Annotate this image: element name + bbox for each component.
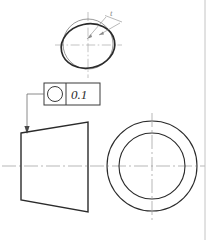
tolerance-value: 0.1 — [71, 87, 87, 102]
feature-control-frame[interactable]: 0.1 — [44, 83, 100, 105]
technical-drawing-canvas: t 0.1 — [0, 0, 211, 240]
drawing-background — [0, 0, 211, 240]
drawing-svg: t 0.1 — [0, 0, 211, 240]
